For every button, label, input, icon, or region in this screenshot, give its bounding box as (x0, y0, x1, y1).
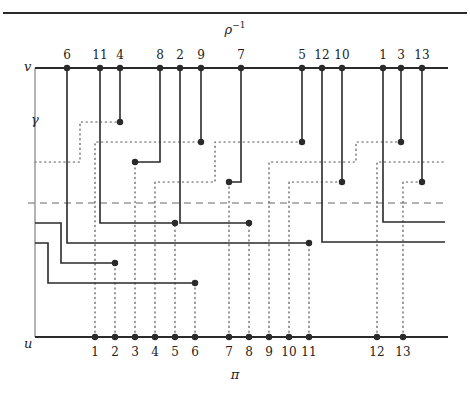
endpoint-dot (306, 240, 312, 246)
u-point-dot (306, 334, 312, 340)
label-u: u (24, 336, 32, 351)
endpoint-dot (398, 139, 404, 145)
v-point-label: 5 (298, 48, 306, 62)
endpoint-dot (226, 179, 232, 185)
u-point-label: 12 (369, 345, 384, 359)
label-gamma: γ (31, 112, 39, 127)
title-rho-inverse: ρ−1 (224, 20, 246, 37)
u-point-label: 5 (171, 345, 179, 359)
solid-paths (35, 68, 445, 283)
v-point-label: 12 (314, 48, 329, 62)
permutation-diagram: ρ−1 π 6114829751210131312345678910111213… (0, 0, 470, 398)
endpoint-dot (132, 159, 138, 165)
endpoint-dot (198, 139, 204, 145)
dotted-path-u1 (95, 142, 201, 337)
v-point-dot (319, 65, 325, 71)
u-point-dot (246, 334, 252, 340)
v-point-dot (419, 65, 425, 71)
v-point-dot (299, 65, 305, 71)
u-point-label: 13 (395, 345, 410, 359)
endpoint-dot (117, 119, 123, 125)
endpoint-dot (172, 220, 178, 226)
dotted-path-u10 (289, 182, 342, 337)
v-point-dot (238, 65, 244, 71)
diagram-svg: ρ−1 π 6114829751210131312345678910111213… (0, 0, 470, 398)
v-point-dot (380, 65, 386, 71)
v-point-dot (64, 65, 70, 71)
endpoint-dot (339, 179, 345, 185)
u-point-label: 10 (281, 345, 296, 359)
solid-path-v2 (180, 68, 249, 223)
v-point-label: 4 (116, 48, 124, 62)
u-point-dot (266, 334, 272, 340)
v-point-label: 1 (379, 48, 387, 62)
u-point-dot (286, 334, 292, 340)
u-point-dot (172, 334, 178, 340)
u-point-dot (192, 334, 198, 340)
v-point-label: 8 (156, 48, 164, 62)
dotted-path-u12 (377, 162, 445, 337)
v-point-dot (177, 65, 183, 71)
solid-path-v7 (229, 68, 241, 182)
v-point-label: 10 (334, 48, 349, 62)
v-point-dot (339, 65, 345, 71)
solid-path-v11 (100, 68, 175, 223)
endpoint-dot (112, 260, 118, 266)
v-point-label: 11 (92, 48, 107, 62)
u-point-label: 11 (301, 345, 316, 359)
label-pi: π (230, 367, 240, 382)
u-point-dot (132, 334, 138, 340)
u-point-dot (112, 334, 118, 340)
endpoint-dot (419, 179, 425, 185)
v-point-label: 3 (397, 48, 405, 62)
solid-path-v1 (383, 68, 445, 222)
u-point-label: 1 (91, 345, 99, 359)
u-point-label: 3 (131, 345, 139, 359)
dotted-path-u13 (403, 182, 422, 337)
v-point-label: 6 (63, 48, 71, 62)
u-point-label: 9 (265, 345, 273, 359)
u-point-label: 6 (191, 345, 199, 359)
v-point-label: 9 (197, 48, 205, 62)
solid-path-v8 (135, 68, 160, 162)
u-point-label: 8 (245, 345, 253, 359)
u-point-label: 4 (151, 345, 159, 359)
u-point-dot (400, 334, 406, 340)
v-point-dot (198, 65, 204, 71)
u-point-dot (152, 334, 158, 340)
u-point-label: 2 (111, 345, 119, 359)
u-point-dot (226, 334, 232, 340)
u-point-label: 7 (225, 345, 233, 359)
label-v: v (24, 59, 32, 74)
v-point-dot (157, 65, 163, 71)
v-point-label: 7 (237, 48, 245, 62)
endpoint-dot (299, 139, 305, 145)
solid-path-v6 (67, 68, 309, 243)
v-point-dot (398, 65, 404, 71)
endpoint-dot (246, 220, 252, 226)
u-point-dot (92, 334, 98, 340)
v-point-dot (117, 65, 123, 71)
endpoint-dot (192, 280, 198, 286)
u-point-dot (374, 334, 380, 340)
v-point-dot (97, 65, 103, 71)
v-point-label: 2 (176, 48, 184, 62)
v-point-label: 13 (414, 48, 429, 62)
